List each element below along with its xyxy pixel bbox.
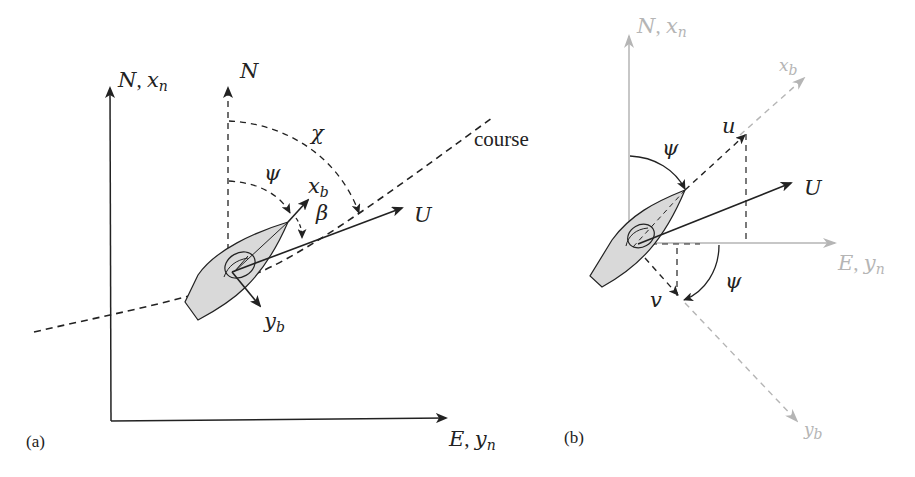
sideslip-angle-arc [296,218,302,238]
panel-b: N, xn xb u ψ U E, yn ψ v yb (b) [564,14,885,447]
east-axis-a [111,418,446,421]
ship-kinematics-diagram: N, xn N χ ψ xb β U course yb E, yn (a) [0,0,915,477]
heading-angle-label-a: ψ [264,161,281,185]
heading-angle-label-top: ψ [662,136,679,160]
body-y-axis-b [685,303,797,421]
heading-angle-arc-a [229,181,290,213]
panel-b-tag: (b) [564,428,584,447]
north-axis-a [110,88,111,421]
panel-a-tag: (a) [26,432,45,451]
speed-label-a: U [414,203,433,227]
course-angle-arc [229,121,359,213]
surge-label: u [722,114,736,138]
body-x-label-a: xb [308,174,329,200]
ship-hull-b [590,190,685,287]
north-axis-label-a: N, xn [117,68,168,94]
body-y-label-b: yb [803,419,823,442]
course-label: course [474,127,529,151]
sideslip-angle-label: β [315,201,328,225]
body-x-axis-b [740,78,804,135]
heading-angle-arc-bottom [684,245,719,300]
sway-label: v [650,288,662,312]
body-y-label-a: yb [263,309,285,335]
east-axis-label-a: E, yn [448,427,496,453]
speed-label-b: U [804,176,823,200]
body-x-vector-a [288,200,308,222]
body-x-label-b: xb [779,55,798,78]
north-axis-label-b: N, xn [636,14,687,40]
heading-angle-arc-top [630,156,685,189]
heading-angle-label-bottom: ψ [725,269,742,293]
east-axis-label-b: E, yn [837,251,885,277]
local-north-label: N [239,59,259,83]
panel-a: N, xn N χ ψ xb β U course yb E, yn (a) [26,59,529,453]
course-angle-label: χ [309,121,325,145]
surge-vector [685,135,745,190]
